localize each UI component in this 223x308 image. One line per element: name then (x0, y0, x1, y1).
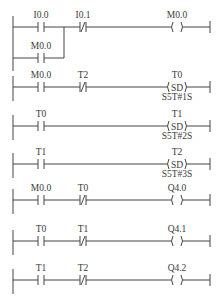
ladder-diagram: I0.0I0.1M0.0M0.0M0.0T2SDT0S5T#1ST0SDT1S5… (0, 0, 223, 308)
timer-preset-label: S5T#3S (162, 169, 193, 179)
contact-label: T1 (36, 263, 47, 273)
coil-label: Q4.0 (168, 183, 187, 193)
contact-label: M0.0 (31, 70, 52, 80)
rung-4: T1SDT2S5T#3S (13, 147, 210, 179)
timer-type-label: SD (171, 122, 183, 132)
contact-label: M0.0 (31, 41, 52, 51)
contact-label: M0.0 (31, 183, 52, 193)
rung-2: M0.0T2SDT0S5T#1S (13, 70, 210, 102)
no-contact: T0 (36, 224, 47, 246)
nc-contact: T2 (78, 70, 89, 92)
rung-1: I0.0I0.1M0.0M0.0 (13, 10, 210, 71)
contact-label: T2 (78, 263, 89, 273)
timer-coil: SDT2S5T#3S (162, 147, 193, 179)
contact-label: T2 (78, 70, 89, 80)
output-coil: M0.0 (167, 10, 188, 32)
no-contact: I0.0 (33, 10, 48, 32)
parallel-branch: M0.0 (13, 27, 64, 63)
nc-contact: I0.1 (75, 10, 90, 32)
coil-label: T1 (172, 109, 183, 119)
contact-label: T0 (78, 183, 89, 193)
nc-contact: T1 (78, 224, 89, 246)
coil-label: Q4.2 (168, 263, 187, 273)
output-coil: Q4.2 (168, 263, 187, 285)
nc-contact: T0 (78, 183, 89, 205)
contact-label: T1 (78, 224, 89, 234)
timer-preset-label: S5T#2S (162, 131, 193, 141)
nc-contact: T2 (78, 263, 89, 285)
rung-6: T0T1Q4.1 (13, 224, 210, 255)
coil-label: T2 (172, 147, 183, 157)
no-contact: T1 (36, 147, 47, 169)
no-contact: M0.0 (31, 183, 52, 205)
timer-type-label: SD (171, 160, 183, 170)
no-contact: T0 (36, 109, 47, 131)
timer-coil: SDT1S5T#2S (162, 109, 193, 141)
timer-type-label: SD (171, 83, 183, 93)
coil-label: M0.0 (167, 10, 188, 20)
output-coil: Q4.1 (168, 224, 187, 246)
contact-label: I0.1 (75, 10, 90, 20)
no-contact: T1 (36, 263, 47, 285)
rung-7: T1T2Q4.2 (13, 263, 210, 294)
coil-label: T0 (172, 70, 183, 80)
rung-3: T0SDT1S5T#2S (13, 109, 210, 141)
contact-label: I0.0 (33, 10, 48, 20)
timer-coil: SDT0S5T#1S (162, 70, 193, 102)
contact-label: T0 (36, 109, 47, 119)
output-coil: Q4.0 (168, 183, 187, 205)
no-contact: M0.0 (31, 70, 52, 92)
no-contact: M0.0 (31, 41, 52, 63)
rung-5: M0.0T0Q4.0 (13, 183, 210, 214)
coil-label: Q4.1 (168, 224, 187, 234)
contact-label: T1 (36, 147, 47, 157)
timer-preset-label: S5T#1S (162, 92, 193, 102)
contact-label: T0 (36, 224, 47, 234)
